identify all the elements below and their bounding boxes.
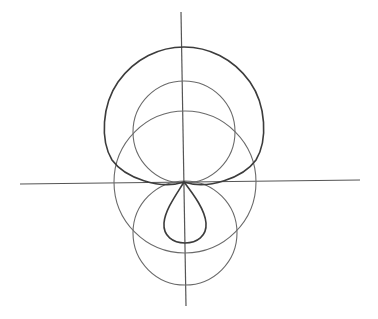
vertical-axis [181,12,186,306]
limacon-diagram [0,0,378,319]
